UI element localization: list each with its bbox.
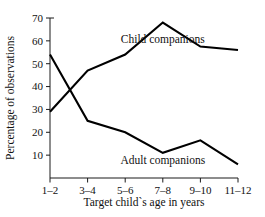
y-tick-label-10: 10 [32,149,44,161]
x-axis-title: Target child`s age in years [84,196,205,209]
line-chart-figure: 102030405060701–23–45–67–89–1011–12Child… [0,0,265,217]
series-annotation-1: Adult companions [120,154,205,167]
x-tick-label-0: 1–2 [42,184,59,196]
y-tick-label-40: 40 [32,80,44,92]
y-tick-label-60: 60 [32,35,44,47]
y-axis-title: Percentage of observations [4,36,17,160]
y-tick-label-70: 70 [32,12,44,24]
y-tick-label-20: 20 [32,126,44,138]
x-tick-label-5: 11–12 [224,184,251,196]
x-tick-label-3: 7–8 [155,184,172,196]
y-tick-label-50: 50 [32,58,44,70]
x-tick-label-2: 5–6 [117,184,134,196]
series-line-adult-companions [50,55,238,165]
y-tick-label-30: 30 [32,103,44,115]
series-annotation-0: Child companions [121,33,206,46]
chart-plot-area: 102030405060701–23–45–67–89–1011–12Child… [0,0,265,217]
x-tick-label-1: 3–4 [79,184,96,196]
x-tick-label-4: 9–10 [189,184,212,196]
